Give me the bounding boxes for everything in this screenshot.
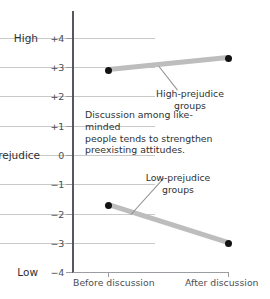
y-axis-line [72, 11, 74, 273]
data-point-high-before [105, 67, 112, 74]
y-tick-label-minus3: −3 [42, 238, 64, 249]
y-tick-plus2 [66, 96, 72, 97]
x-axis-line [73, 272, 229, 273]
annotation-line1: Discussion among like-minded [85, 109, 193, 132]
y-tick-label-plus4: +4 [42, 33, 64, 44]
y-tick-label-zero: 0 [42, 150, 64, 161]
y-axis-title: Prejudice [0, 149, 38, 161]
chart-annotation-text: Discussion among like-minded people tend… [85, 109, 225, 156]
callout-high-line1: High-prejudice [156, 88, 224, 99]
y-tick-minus2 [66, 214, 72, 215]
gridline-minus3 [0, 243, 155, 244]
y-tick-label-plus2: +2 [42, 91, 64, 102]
callout-low-line2: groups [162, 184, 194, 195]
y-tick-label-minus4: −4 [42, 267, 64, 278]
prejudice-polarization-chart: +4 +3 +2 +1 0 −1 −2 −3 −4 High Prejudice… [0, 0, 270, 299]
y-tick-label-plus3: +3 [42, 62, 64, 73]
x-tick-label-after: After discussion [185, 277, 258, 288]
y-tick-plus1 [66, 126, 72, 127]
annotation-line3: preexisting attitudes. [85, 144, 185, 155]
data-point-low-after [225, 240, 232, 247]
y-tick-plus4 [66, 38, 72, 39]
y-tick-minus3 [66, 243, 72, 244]
x-tick-label-before: Before discussion [73, 277, 155, 288]
callout-high-prejudice: High-prejudice groups [140, 88, 240, 111]
y-axis-anchor-high: High [0, 32, 38, 44]
callout-low-prejudice: Low-prejudice groups [128, 172, 228, 195]
y-tick-label-plus1: +1 [42, 121, 64, 132]
y-tick-plus3 [66, 67, 72, 68]
y-axis-anchor-low: Low [0, 266, 38, 278]
y-tick-minus1 [66, 184, 72, 185]
y-tick-label-minus1: −1 [42, 179, 64, 190]
y-tick-zero [66, 155, 72, 156]
y-tick-label-minus2: −2 [42, 209, 64, 220]
y-tick-minus4 [66, 272, 72, 273]
gridline-plus2 [0, 96, 155, 97]
data-point-low-before [105, 202, 112, 209]
data-point-high-after [225, 55, 232, 62]
callout-low-line1: Low-prejudice [146, 172, 211, 183]
annotation-line2: people tends to strengthen [85, 133, 213, 144]
